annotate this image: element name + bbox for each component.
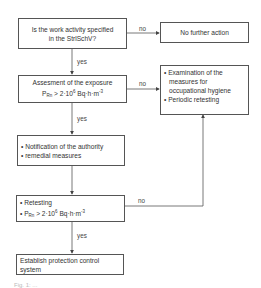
- list-item: occupational hygiene: [164, 86, 245, 95]
- node-text: Is the work activity specified: [19, 25, 126, 34]
- list-item: • remedial measures: [21, 151, 121, 160]
- figure-caption: Fig. 1: ...: [14, 282, 37, 288]
- node-text: Assesment of the exposure: [19, 78, 126, 87]
- node-establish: Establish protection control system: [16, 254, 124, 275]
- list-item: • Examination of the: [164, 68, 245, 77]
- node-q-activity: Is the work activity specified in the St…: [18, 18, 127, 49]
- edge-label-yes: yes: [77, 58, 87, 65]
- formula: PRn > 2·106 Bq·h·m-3: [19, 87, 126, 100]
- node-text: in the StrlSchV?: [19, 34, 126, 43]
- node-notification: • Notification of the authority • remedi…: [17, 135, 125, 166]
- node-no-action: No further action: [160, 22, 249, 43]
- list-item: • Retesting: [20, 198, 121, 207]
- edge-label-yes: yes: [77, 232, 87, 239]
- node-assessment: Assesment of the exposure PRn > 2·106 Bq…: [18, 75, 127, 103]
- formula: • PRn > 2·106 Bq·h·m-3: [20, 207, 121, 220]
- edge-label-no: no: [139, 80, 146, 87]
- list-item: • Notification of the authority: [21, 142, 121, 151]
- list-item: • Periodic retesting: [164, 95, 245, 104]
- edge-label-no: no: [138, 197, 145, 204]
- list-item: measures for: [164, 77, 245, 86]
- node-text: No further action: [161, 28, 248, 37]
- node-examination: • Examination of the measures for occupa…: [160, 65, 249, 115]
- node-retesting: • Retesting • PRn > 2·106 Bq·h·m-3: [16, 195, 125, 222]
- edge-label-no: no: [139, 25, 146, 32]
- node-text: Establish protection control: [20, 256, 120, 265]
- node-text: system: [20, 265, 120, 274]
- edge-label-yes: yes: [77, 115, 87, 122]
